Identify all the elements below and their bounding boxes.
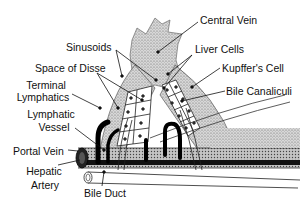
bile-duct-vessel bbox=[84, 172, 300, 188]
liver-lobule-diagram: Central Vein Sinusoids Liver Cells Space… bbox=[0, 0, 308, 209]
label-sinusoids: Sinusoids bbox=[66, 42, 112, 53]
label-bile-duct: Bile Duct bbox=[84, 188, 126, 199]
label-central-vein: Central Vein bbox=[200, 15, 257, 26]
label-kupffers-cell: Kupffer's Cell bbox=[222, 63, 284, 74]
label-hepatic-artery-line1: Hepatic bbox=[24, 166, 64, 177]
label-bile-canaliculi: Bile Canaliculi bbox=[226, 86, 292, 97]
label-terminal-lymphatics-line1: Terminal bbox=[18, 80, 74, 91]
label-hepatic-artery-line2: Artery bbox=[26, 180, 64, 191]
label-liver-cells: Liver Cells bbox=[195, 44, 244, 55]
label-portal-vein: Portal Vein bbox=[13, 146, 64, 157]
label-lymphatic-vessel-line2: Vessel bbox=[32, 122, 76, 133]
label-lymphatic-vessel-line1: Lymphatic bbox=[24, 109, 78, 120]
label-space-of-disse: Space of Disse bbox=[35, 63, 106, 74]
diagram-illustration bbox=[0, 0, 308, 209]
label-terminal-lymphatics-line2: Lymphatics bbox=[12, 92, 74, 103]
